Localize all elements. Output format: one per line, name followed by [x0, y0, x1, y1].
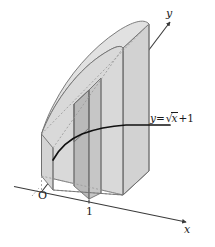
- cross-section-slab-1: [74, 90, 89, 199]
- y-axis-label: y: [166, 8, 172, 19]
- curve-equation-label: y=√x+1: [150, 112, 194, 124]
- origin-label: O: [38, 190, 47, 201]
- x-tick-label-1: 1: [86, 206, 93, 217]
- radicand: x: [171, 112, 178, 124]
- math-figure: y x O 1 y=√x+1: [0, 0, 215, 247]
- solid-right-face: [123, 24, 149, 195]
- x-axis-label: x: [184, 224, 190, 235]
- equation-equals: =: [156, 112, 165, 124]
- radical-group: √x: [165, 112, 179, 124]
- cross-section-slab-2: [89, 78, 101, 199]
- equation-plus-one: +1: [178, 112, 193, 124]
